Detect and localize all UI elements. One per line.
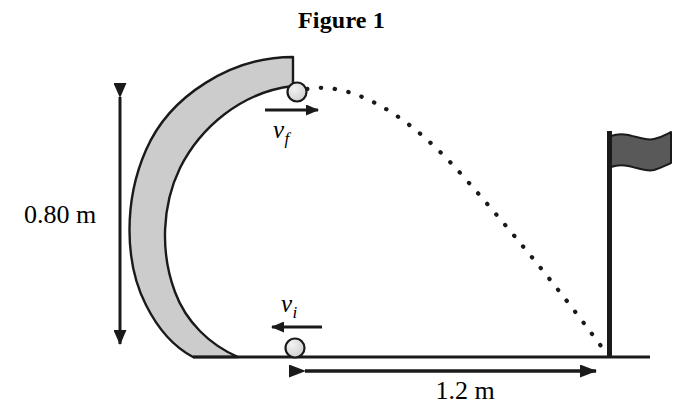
ball-top	[288, 83, 307, 102]
physics-figure: Figure 1 0.80 m 1.2 m vf vi	[0, 0, 683, 418]
velocity-final-symbol: v	[273, 116, 284, 143]
velocity-initial-subscript: i	[292, 303, 297, 322]
velocity-initial-label: vi	[281, 291, 297, 321]
ball-bottom	[286, 339, 305, 358]
range-dimension-label: 1.2 m	[400, 378, 530, 404]
curved-ramp	[130, 57, 294, 357]
figure-title: Figure 1	[0, 8, 683, 32]
trajectory-path	[307, 88, 606, 353]
velocity-initial-symbol: v	[281, 290, 292, 317]
velocity-final-subscript: f	[284, 129, 289, 148]
flag	[611, 132, 671, 170]
velocity-final-label: vf	[273, 117, 289, 147]
height-dimension-label: 0.80 m	[8, 202, 112, 228]
